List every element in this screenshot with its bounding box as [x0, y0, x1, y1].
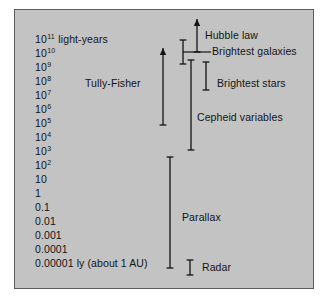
range-bar-hubble-law	[194, 19, 201, 52]
range-bar-parallax	[167, 157, 174, 268]
range-bar-tully-fisher	[160, 48, 167, 125]
distance-ladder-figure: 1011light-years1010109108107106105104103…	[0, 0, 327, 298]
range-bar-cepheid-variables	[188, 60, 195, 150]
range-bars-overlay	[15, 10, 315, 290]
range-bar-brightest-galaxies	[180, 40, 211, 64]
range-bar-radar	[187, 260, 194, 275]
diagram-panel: 1011light-years1010109108107106105104103…	[14, 9, 314, 289]
range-bar-brightest-stars	[203, 62, 210, 90]
